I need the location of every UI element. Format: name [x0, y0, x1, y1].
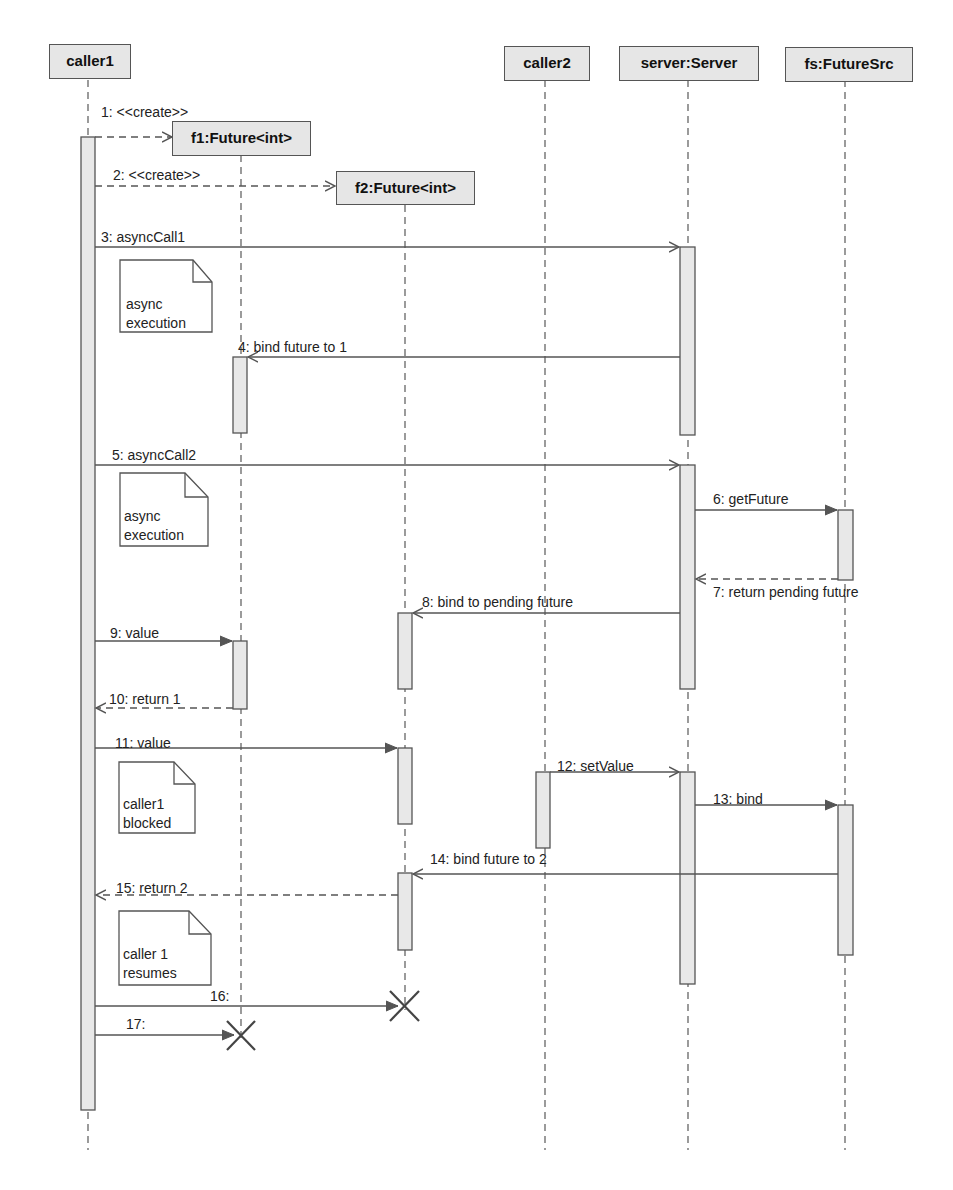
- note-text-1: async execution: [126, 295, 186, 333]
- message-label-15: 15: return 2: [116, 880, 188, 896]
- activation-f2-1: [398, 613, 412, 689]
- activation-f2-3: [398, 873, 412, 950]
- lifeline-header-caller1: caller1: [49, 44, 131, 79]
- activation-f2-2: [398, 748, 412, 824]
- note-text-4: caller 1 resumes: [123, 945, 177, 983]
- activation-fs-2: [838, 805, 853, 955]
- message-label-7: 7: return pending future: [713, 584, 859, 600]
- message-label-14: 14: bind future to 2: [430, 851, 547, 867]
- message-label-11: 11: value: [115, 735, 171, 751]
- activation-server-3: [680, 772, 695, 984]
- message-label-13: 13: bind: [713, 791, 763, 807]
- message-label-8: 8: bind to pending future: [422, 594, 573, 610]
- activation-caller2: [536, 772, 550, 848]
- note-text-2: async execution: [124, 507, 184, 545]
- message-label-17: 17:: [126, 1016, 145, 1032]
- message-label-16: 16:: [210, 988, 229, 1004]
- notes: [119, 260, 212, 985]
- lifeline-header-caller2: caller2: [504, 46, 590, 81]
- note-text-3: caller1 blocked: [123, 795, 171, 833]
- activation-caller1: [81, 137, 95, 1110]
- message-label-1: 1: <<create>>: [101, 104, 188, 120]
- lifelines: [88, 80, 845, 1150]
- lifeline-header-f1: f1:Future<int>: [172, 121, 311, 156]
- message-label-10: 10: return 1: [109, 691, 181, 707]
- activation-f1-2: [233, 641, 247, 709]
- activation-f1-1: [233, 357, 247, 433]
- message-label-12: 12: setValue: [557, 758, 634, 774]
- lifeline-header-f2: f2:Future<int>: [336, 171, 475, 205]
- lifeline-header-server: server:Server: [619, 46, 759, 81]
- message-label-3: 3: asyncCall1: [101, 229, 185, 245]
- message-label-5: 5: asyncCall2: [112, 447, 196, 463]
- message-label-2: 2: <<create>>: [113, 167, 200, 183]
- lifeline-header-fs: fs:FutureSrc: [785, 47, 913, 82]
- activation-server-2: [680, 465, 695, 689]
- destroy-icons: [227, 991, 419, 1050]
- activation-server-1: [680, 247, 695, 435]
- activation-fs-1: [838, 510, 853, 580]
- message-label-4: 4: bind future to 1: [238, 339, 347, 355]
- message-label-9: 9: value: [110, 625, 159, 641]
- message-label-6: 6: getFuture: [713, 491, 789, 507]
